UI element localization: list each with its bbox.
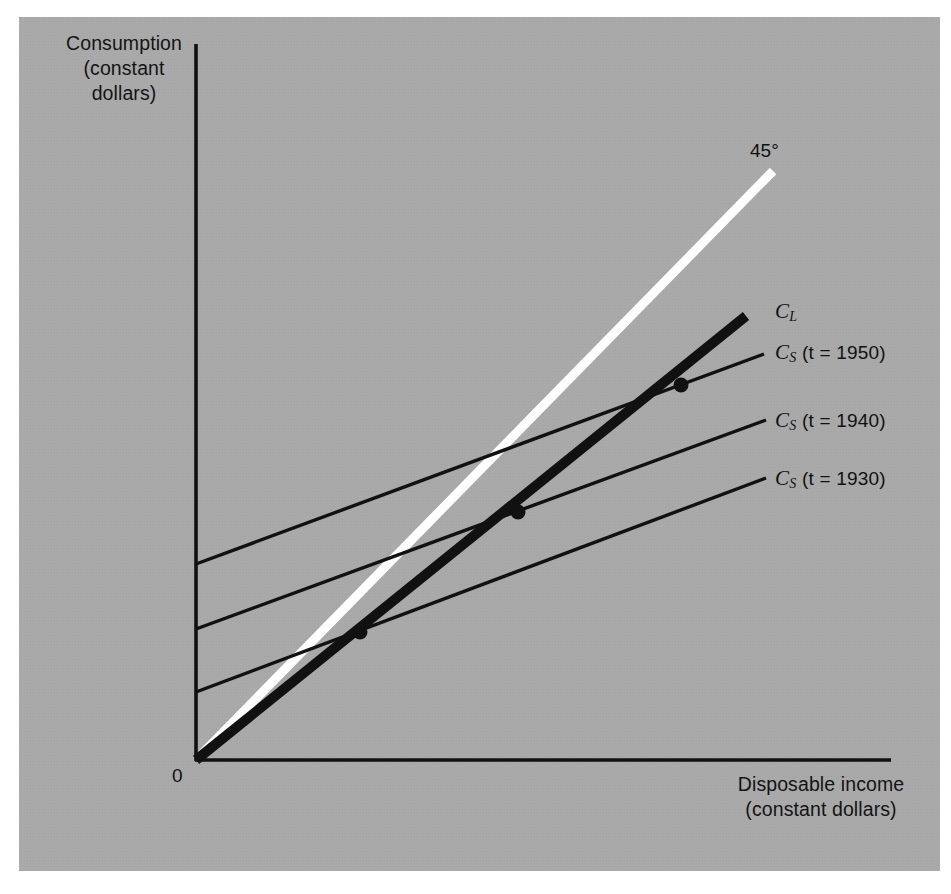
curve-label-cs-1930: CS (t = 1930): [775, 466, 886, 492]
curve-label-cl-symbol: C: [775, 299, 789, 323]
curve-cl-longrun: [196, 316, 746, 760]
reference-line-45: [196, 171, 773, 760]
y-axis-title: Consumption (constant dollars): [56, 31, 192, 106]
x-axis-title: Disposable income (constant dollars): [716, 772, 926, 822]
equilibrium-marker-1930: [353, 625, 368, 640]
chart-plot-area: [0, 0, 951, 894]
curve-label-cs-1930-symbol: C: [775, 466, 789, 490]
curve-label-cl: CL: [775, 299, 797, 325]
curve-label-cs-1950-subscript: S: [789, 350, 796, 365]
curve-label-cs-1940: CS (t = 1940): [775, 408, 886, 434]
curve-label-cl-subscript: L: [789, 309, 797, 324]
equilibrium-marker-1940: [511, 505, 526, 520]
curve-label-cs-1940-symbol: C: [775, 408, 789, 432]
curve-cs-1930: [196, 478, 766, 692]
curve-label-cs-1940-subscript: S: [789, 418, 796, 433]
equilibrium-marker-1950: [674, 378, 689, 393]
curve-label-cs-1930-subscript: S: [789, 476, 796, 491]
reference-line-45-label: 45°: [750, 140, 779, 162]
curve-label-cs-1930-suffix: (t = 1930): [802, 468, 886, 489]
figure-container: Consumption (constant dollars) Disposabl…: [0, 0, 951, 894]
curve-label-cs-1950: CS (t = 1950): [775, 340, 886, 366]
curve-label-cs-1950-symbol: C: [775, 340, 789, 364]
origin-label: 0: [172, 765, 183, 787]
curve-label-cs-1940-suffix: (t = 1940): [802, 410, 886, 431]
curve-label-cs-1950-suffix: (t = 1950): [802, 342, 886, 363]
